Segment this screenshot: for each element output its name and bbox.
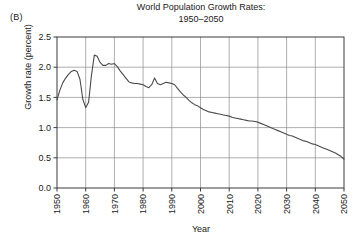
svg-text:1990: 1990	[167, 194, 177, 214]
svg-text:2010: 2010	[225, 194, 235, 214]
svg-text:1980: 1980	[138, 194, 148, 214]
svg-text:2000: 2000	[196, 194, 206, 214]
svg-text:2020: 2020	[253, 194, 263, 214]
svg-text:1950: 1950	[52, 194, 62, 214]
axis-tick-marks	[54, 37, 345, 192]
svg-text:1.5: 1.5	[38, 93, 51, 103]
svg-text:0.5: 0.5	[38, 153, 51, 163]
figure-panel-b: (B) World Population Growth Rates: 1950–…	[0, 0, 363, 242]
svg-text:1.0: 1.0	[38, 123, 51, 133]
x-axis-tick-labels: 1950196019701980199020002010202020302040…	[52, 194, 349, 214]
svg-text:2050: 2050	[339, 194, 349, 214]
line-chart-plot: 0.00.51.01.52.02.5 195019601970198019902…	[0, 0, 363, 242]
svg-text:0.0: 0.0	[38, 183, 51, 193]
svg-text:2040: 2040	[311, 194, 321, 214]
svg-text:2030: 2030	[282, 194, 292, 214]
y-axis-tick-labels: 0.00.51.01.52.02.5	[38, 32, 51, 193]
svg-text:1960: 1960	[81, 194, 91, 214]
svg-text:2.0: 2.0	[38, 62, 51, 72]
svg-text:2.5: 2.5	[38, 32, 51, 42]
gridlines	[57, 37, 344, 188]
svg-text:1970: 1970	[110, 194, 120, 214]
